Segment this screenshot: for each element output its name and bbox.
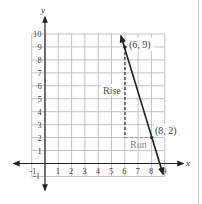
y-tick-label: 1 [38,146,42,156]
x-axis-label: x [185,158,190,168]
x-tick-label: 1 [56,166,60,176]
point-label-8-2: (8, 2) [155,125,177,137]
x-tick-label: 8 [149,166,153,176]
slope-line [121,36,163,174]
point-label-6-9: (6, 9) [129,39,151,51]
x-tick-label: 5 [109,166,113,176]
y-tick-label: 10 [33,29,42,39]
point-8-2 [150,136,153,139]
x-tick-label: 7 [136,166,140,176]
y-tick-label: -1 [33,171,40,181]
y-tick-label: 7 [38,68,42,78]
grid [32,34,165,176]
x-tick-label: 2 [69,166,73,176]
panel-border [198,0,199,204]
x-tick-label: 4 [96,166,101,176]
y-tick-label: 5 [38,94,42,104]
y-tick-label: 2 [38,133,42,143]
point-6-9 [123,45,126,48]
run-label: Run [130,139,147,150]
rise-label: Rise [103,85,121,96]
y-axis-label: y [40,5,45,15]
x-tick-label: 3 [82,166,86,176]
y-tick-label: 8 [38,55,42,65]
y-tick-label: 9 [38,42,42,52]
y-tick-label: 6 [38,81,42,91]
y-tick-label: 3 [38,120,42,130]
slope-graph: -1123456789-112345678910 x y Rise Run (6… [0,0,202,204]
x-tick-label: 6 [122,166,126,176]
